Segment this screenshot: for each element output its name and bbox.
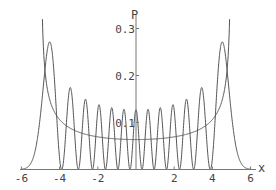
x-tick-label: -2: [91, 172, 104, 185]
y-tick-label: 0.2: [115, 70, 135, 83]
probability-density-chart: -6-4-2246 0.10.20.3 x P: [0, 0, 276, 190]
x-tick-label: -4: [53, 172, 67, 185]
y-tick-label: 0.1: [115, 117, 135, 130]
x-axis-label: x: [258, 161, 265, 175]
x-tick-label: 2: [171, 172, 178, 185]
y-tick-label: 0.3: [115, 23, 135, 36]
y-axis-label: P: [131, 8, 138, 22]
x-tick-label: 4: [209, 172, 216, 185]
x-tick-label: 6: [247, 172, 254, 185]
x-tick-label: -6: [15, 172, 28, 185]
